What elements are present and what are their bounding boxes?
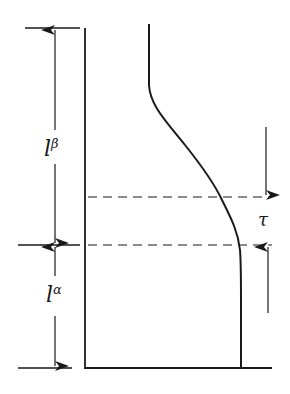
l-alpha-label: lα bbox=[46, 284, 62, 306]
l-beta-label: lβ bbox=[44, 138, 59, 160]
interface-profile-diagram bbox=[0, 0, 290, 394]
l-beta-main: l bbox=[44, 136, 51, 161]
l-alpha-superscript: α bbox=[53, 282, 62, 297]
tau-label: τ bbox=[258, 211, 268, 229]
l-beta-superscript: β bbox=[51, 136, 59, 151]
l-alpha-main: l bbox=[46, 282, 53, 307]
profile-curve bbox=[149, 24, 241, 368]
